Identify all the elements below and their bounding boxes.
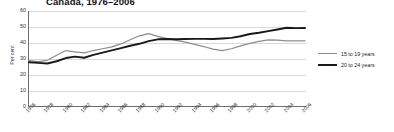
- legend-line-swatch: [318, 53, 337, 54]
- legend-item-label: 20 to 24 years: [341, 62, 375, 68]
- y-axis-tick-label: 30: [10, 56, 26, 61]
- y-axis-tick-label: 40: [10, 40, 26, 45]
- data-series-line: [29, 28, 305, 64]
- y-axis-tick-label: 50: [10, 24, 26, 29]
- data-series-group: [29, 28, 305, 64]
- legend-line-swatch: [318, 64, 337, 66]
- chart-plot-svg: [28, 11, 306, 107]
- plot-area: [28, 11, 306, 107]
- chart-title: Canada, 1976–2006: [46, 0, 135, 7]
- y-axis-tick-labels: 0102030405060: [8, 11, 26, 107]
- chart-figure: Canada, 1976–2006 Per cent 0102030405060…: [0, 0, 394, 132]
- y-axis-tick-label: 20: [10, 72, 26, 77]
- gridlines: [28, 12, 306, 107]
- legend-item: 20 to 24 years: [318, 59, 394, 70]
- x-axis-tick-labels: 1976197819801982198419861988199019921994…: [28, 107, 306, 132]
- y-axis-tick-label: 10: [10, 88, 26, 93]
- chart-legend: 15 to 19 years20 to 24 years: [318, 48, 394, 70]
- legend-item-label: 15 to 19 years: [341, 51, 375, 57]
- legend-item: 15 to 19 years: [318, 48, 394, 59]
- x-axis-tick-label: 1976: [25, 102, 37, 114]
- y-axis-tick-label: 60: [10, 8, 26, 13]
